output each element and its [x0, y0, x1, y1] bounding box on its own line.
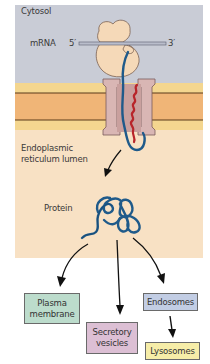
arrow-endosomes-to-lysosomes: [168, 316, 176, 338]
cytosol-label: Cytosol: [21, 6, 51, 17]
lysosomes-label: Lysosomes: [150, 346, 194, 357]
protein-label: Protein: [44, 203, 72, 214]
translocon-channel: [103, 79, 155, 135]
plasma-membrane-box: Plasma membrane: [24, 293, 80, 324]
plasma-membrane-line1: Plasma: [37, 298, 66, 309]
mrna-3prime-label: 3′: [168, 38, 175, 49]
mrna-label: mRNA: [30, 38, 56, 49]
lumen-label-line1: Endoplasmic: [21, 143, 73, 154]
lumen-label-line2: reticulum lumen: [21, 154, 88, 165]
plasma-membrane-line2: membrane: [30, 309, 75, 320]
lysosomes-box: Lysosomes: [145, 342, 200, 360]
secretory-vesicles-line1: Secretory: [92, 327, 131, 338]
mrna-strand: [79, 42, 166, 45]
er-protein-sorting-diagram: Cytosol mRNA 5′ 3′ Endoplasmic reticulum…: [0, 0, 210, 364]
endosomes-label: Endosomes: [147, 297, 194, 308]
endosomes-box: Endosomes: [143, 293, 198, 311]
secretory-vesicles-box: Secretory vesicles: [86, 322, 138, 354]
mrna-5prime-label: 5′: [69, 38, 76, 49]
secretory-vesicles-line2: vesicles: [96, 338, 128, 349]
